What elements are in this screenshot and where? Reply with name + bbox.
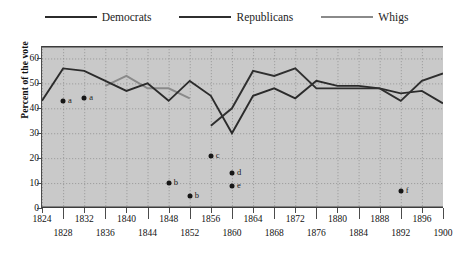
- x-tick-mark: [42, 208, 43, 213]
- x-tick-mark: [295, 208, 296, 213]
- data-point-label-a: a: [68, 95, 72, 105]
- x-tick-label: 1832: [75, 214, 94, 224]
- x-tick-label: 1860: [222, 228, 241, 238]
- legend-label-republicans: Republicans: [236, 11, 293, 23]
- data-point-label-a: a: [89, 92, 93, 102]
- legend-label-whigs: Whigs: [378, 11, 408, 23]
- data-point-label-b: b: [174, 177, 178, 187]
- x-tick-label: 1856: [201, 214, 220, 224]
- x-tick-mark: [84, 208, 85, 213]
- x-tick-label: 1864: [244, 214, 263, 224]
- x-tick-mark: [422, 208, 423, 213]
- x-tick-mark: [401, 208, 402, 219]
- x-tick-mark: [380, 208, 381, 213]
- x-tick-label: 1848: [159, 214, 178, 224]
- data-point-label-e: e: [237, 180, 241, 190]
- x-tick-mark: [190, 208, 191, 219]
- data-point-b: [187, 193, 192, 198]
- legend-label-democrats: Democrats: [102, 11, 152, 23]
- data-point-e: [229, 183, 234, 188]
- data-point-label-c: c: [216, 150, 220, 160]
- data-point-a: [82, 96, 87, 101]
- x-tick-label: 1876: [307, 228, 326, 238]
- chart-figure: Democrats Republicans Whigs Percent of t…: [0, 0, 453, 256]
- legend-item-republicans: Republicans: [179, 11, 293, 23]
- x-tick-mark: [169, 208, 170, 213]
- x-tick-label: 1888: [370, 214, 389, 224]
- legend-swatch-republicans: [179, 16, 231, 18]
- x-tick-mark: [359, 208, 360, 219]
- data-point-f: [398, 188, 403, 193]
- x-tick-label: 1828: [54, 228, 73, 238]
- x-tick-label: 1884: [349, 228, 368, 238]
- data-point-a: [61, 98, 66, 103]
- legend-swatch-whigs: [321, 16, 373, 18]
- x-tick-mark: [316, 208, 317, 219]
- chart-legend: Democrats Republicans Whigs: [0, 6, 453, 28]
- x-tick-label: 1896: [412, 214, 431, 224]
- x-tick-mark: [211, 208, 212, 213]
- x-tick-mark: [337, 208, 338, 213]
- data-point-c: [208, 153, 213, 158]
- x-tick-mark: [148, 208, 149, 219]
- legend-swatch-democrats: [45, 16, 97, 18]
- x-tick-label: 1844: [138, 228, 157, 238]
- x-tick-label: 1900: [434, 228, 453, 238]
- legend-item-whigs: Whigs: [321, 11, 408, 23]
- x-tick-label: 1892: [391, 228, 410, 238]
- x-tick-label: 1868: [265, 228, 284, 238]
- data-point-b: [166, 181, 171, 186]
- x-tick-label: 1836: [96, 228, 115, 238]
- legend-item-democrats: Democrats: [45, 11, 152, 23]
- x-tick-mark: [105, 208, 106, 219]
- data-point-d: [229, 171, 234, 176]
- x-tick-mark: [232, 208, 233, 219]
- x-tick-mark: [63, 208, 64, 219]
- x-tick-mark: [253, 208, 254, 213]
- y-axis-title: Percent of the vote: [20, 25, 30, 135]
- y-axis-spine: [41, 46, 42, 208]
- x-tick-label: 1840: [117, 214, 136, 224]
- x-tick-mark: [126, 208, 127, 213]
- x-tick-label: 1824: [33, 214, 52, 224]
- x-tick-label: 1880: [328, 214, 347, 224]
- data-point-label-f: f: [406, 185, 409, 195]
- x-tick-label: 1852: [180, 228, 199, 238]
- data-point-label-d: d: [237, 167, 241, 177]
- plot-area: aabbcdef01020304050601824182818321836184…: [42, 46, 443, 208]
- x-tick-mark: [443, 208, 444, 219]
- x-tick-mark: [274, 208, 275, 219]
- data-point-label-b: b: [195, 190, 199, 200]
- x-tick-label: 1872: [286, 214, 305, 224]
